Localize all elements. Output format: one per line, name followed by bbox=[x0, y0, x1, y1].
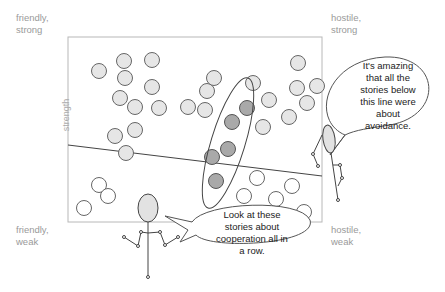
text-line: Look at these bbox=[200, 209, 304, 221]
stick-figure-right bbox=[312, 124, 344, 201]
speech-text-right: It's amazing that all the stories below … bbox=[348, 60, 428, 132]
text-line: a row. bbox=[200, 245, 304, 257]
story-circles bbox=[92, 53, 325, 161]
text-line: avoidance. bbox=[348, 120, 428, 132]
text-line: this line were bbox=[348, 96, 428, 108]
text-line: that all the bbox=[348, 72, 428, 84]
speech-text-bottom: Look at these stories about cooperation … bbox=[200, 209, 304, 257]
y-axis-label: strength bbox=[61, 95, 71, 135]
stick-figure-left bbox=[123, 194, 180, 279]
divider-line bbox=[68, 145, 322, 176]
text-line: about bbox=[348, 108, 428, 120]
text-line: stories below bbox=[348, 84, 428, 96]
text-line: cooperation all in bbox=[200, 233, 304, 245]
text-line: It's amazing bbox=[348, 60, 428, 72]
text-line: stories about bbox=[200, 221, 304, 233]
